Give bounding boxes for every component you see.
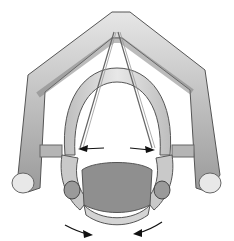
arrow-curved-bottom-left-icon (65, 225, 93, 238)
arrow-curved-bottom-right-icon (133, 222, 162, 237)
larynx-drawing (0, 0, 234, 241)
cricoid-cartilage (64, 68, 170, 155)
larynx-illustration (0, 0, 234, 241)
arrow-left-icon (78, 145, 104, 152)
arytenoid-cartilages (61, 155, 173, 225)
